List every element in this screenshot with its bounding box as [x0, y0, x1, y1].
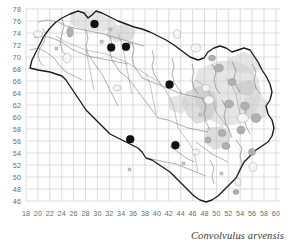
occurrence-dot[interactable] — [126, 135, 134, 143]
y-tick-label: 56 — [13, 137, 21, 146]
occurrence-dot[interactable] — [166, 81, 174, 89]
map-canvas: 78 76 74 72 70 68 66 64 62 60 58 56 54 5… — [0, 0, 288, 243]
x-tick-label: 28 — [81, 209, 89, 218]
x-tick-label: 26 — [69, 209, 77, 218]
x-tick-label: 20 — [34, 209, 42, 218]
x-tick-label: 46 — [188, 209, 196, 218]
y-tick-label: 62 — [13, 101, 21, 110]
y-tick-label: 70 — [13, 53, 21, 62]
occurrence-dot[interactable] — [122, 43, 130, 51]
x-tick-label: 40 — [153, 209, 161, 218]
x-tick-label: 54 — [236, 209, 244, 218]
occurrence-dot[interactable] — [107, 43, 115, 51]
x-tick-label: 30 — [93, 209, 101, 218]
x-tick-label: 50 — [212, 209, 220, 218]
x-tick-label: 42 — [165, 209, 173, 218]
x-tick-label: 18 — [22, 209, 30, 218]
x-tick-label: 32 — [105, 209, 113, 218]
y-tick-label: 68 — [13, 65, 21, 74]
y-tick-label: 66 — [13, 77, 21, 86]
y-tick-label: 50 — [13, 173, 21, 182]
x-axis-labels: 18 20 22 24 26 28 30 32 34 36 38 40 42 4… — [22, 209, 280, 218]
y-tick-label: 58 — [13, 125, 21, 134]
x-tick-label: 44 — [177, 209, 185, 218]
x-tick-label: 56 — [248, 209, 256, 218]
occurrence-dot[interactable] — [171, 141, 179, 149]
x-tick-label: 60 — [272, 209, 280, 218]
x-tick-label: 48 — [200, 209, 208, 218]
y-tick-label: 48 — [13, 185, 21, 194]
y-tick-label: 78 — [13, 5, 21, 14]
y-axis-labels: 78 76 74 72 70 68 66 64 62 60 58 56 54 5… — [13, 5, 21, 206]
x-tick-label: 52 — [224, 209, 232, 218]
x-tick-label: 36 — [129, 209, 137, 218]
y-tick-label: 54 — [13, 149, 21, 158]
x-tick-label: 24 — [58, 209, 66, 218]
y-tick-label: 60 — [13, 113, 21, 122]
y-tick-label: 46 — [13, 197, 21, 206]
figure-caption: Convolvulus arvensis — [191, 230, 284, 241]
x-tick-label: 34 — [117, 209, 125, 218]
y-tick-label: 52 — [13, 161, 21, 170]
distribution-map-figure: 78 76 74 72 70 68 66 64 62 60 58 56 54 5… — [0, 0, 288, 243]
occurrence-dot[interactable] — [91, 20, 99, 28]
x-tick-label: 58 — [260, 209, 268, 218]
x-tick-label: 38 — [141, 209, 149, 218]
y-tick-label: 72 — [13, 41, 21, 50]
y-tick-label: 64 — [13, 89, 21, 98]
y-tick-label: 74 — [13, 29, 21, 38]
y-tick-label: 76 — [13, 17, 21, 26]
x-tick-label: 22 — [46, 209, 54, 218]
